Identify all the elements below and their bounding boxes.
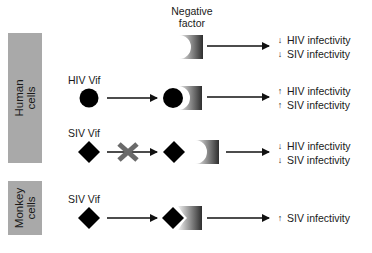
up-arrow-icon: ↑ <box>276 84 284 98</box>
row3-arrow-result-icon <box>226 146 271 158</box>
negative-factor-icon <box>177 35 203 59</box>
hiv-vif-bound-factor-icon <box>162 86 202 110</box>
monkey-cells-line2: cells <box>25 188 37 228</box>
row2-arrow-result-icon <box>207 91 271 103</box>
row2-arrow-icon <box>107 92 159 104</box>
down-arrow-icon: ↓ <box>276 33 284 47</box>
row4-result-siv: ↑SIV infectivity <box>276 211 350 225</box>
negative-factor-title-line1: Negative <box>152 5 232 17</box>
row4-result-siv-text: SIV infectivity <box>287 211 350 225</box>
row4-arrow-result-icon <box>207 212 271 224</box>
row3-result-hiv-text: HIV infectivity <box>287 139 351 153</box>
human-cells-label-box: Human cells <box>8 33 42 163</box>
row1-results: ↓HIV infectivity ↓SIV infectivity <box>276 33 351 61</box>
human-cells-line1: Human <box>13 79 25 116</box>
row3-result-hiv: ↓HIV infectivity <box>276 139 351 153</box>
up-arrow-icon: ↑ <box>276 211 284 225</box>
hiv-vif-circle-icon <box>79 88 99 108</box>
siv-vif-bound-factor-icon <box>162 206 202 230</box>
siv-vif-diamond-monkey-icon <box>78 207 100 229</box>
siv-vif-diamond-unbound-icon <box>163 141 185 163</box>
up-arrow-icon: ↑ <box>276 98 284 112</box>
row1-result-hiv: ↓HIV infectivity <box>276 33 351 47</box>
row3-results: ↓HIV infectivity ↓SIV infectivity <box>276 139 351 167</box>
negative-factor-title: Negative factor <box>152 5 232 29</box>
row2-result-siv: ↑SIV infectivity <box>276 98 351 112</box>
monkey-cells-label-box: Monkey cells <box>8 181 42 235</box>
row3-blocked-arrow-icon <box>107 141 159 163</box>
row4-results: ↑SIV infectivity <box>276 211 350 225</box>
down-arrow-icon: ↓ <box>276 139 284 153</box>
row1-result-hiv-text: HIV infectivity <box>287 33 351 47</box>
human-cells-label: Human cells <box>13 79 37 116</box>
row1-arrow-icon <box>207 40 271 52</box>
row3-result-siv: ↓SIV infectivity <box>276 153 351 167</box>
row4-arrow-icon <box>107 212 159 224</box>
negative-factor-title-line2: factor <box>152 17 232 29</box>
row2-result-hiv-text: HIV infectivity <box>287 84 351 98</box>
siv-vif-monkey-label: SIV Vif <box>68 193 100 205</box>
monkey-cells-label: Monkey cells <box>13 188 37 228</box>
row2-result-siv-text: SIV infectivity <box>287 98 350 112</box>
down-arrow-icon: ↓ <box>276 153 284 167</box>
monkey-cells-line1: Monkey <box>13 188 25 228</box>
row1-result-siv-text: SIV infectivity <box>287 47 350 61</box>
row2-results: ↑HIV infectivity ↑SIV infectivity <box>276 84 351 112</box>
hiv-vif-label: HIV Vif <box>68 74 100 86</box>
row2-result-hiv: ↑HIV infectivity <box>276 84 351 98</box>
down-arrow-icon: ↓ <box>276 47 284 61</box>
negative-factor-unbound-icon <box>193 140 219 164</box>
siv-vif-diamond-icon <box>78 141 100 163</box>
row3-result-siv-text: SIV infectivity <box>287 153 350 167</box>
siv-vif-human-label: SIV Vif <box>68 127 100 139</box>
row1-result-siv: ↓SIV infectivity <box>276 47 351 61</box>
human-cells-line2: cells <box>25 79 37 116</box>
